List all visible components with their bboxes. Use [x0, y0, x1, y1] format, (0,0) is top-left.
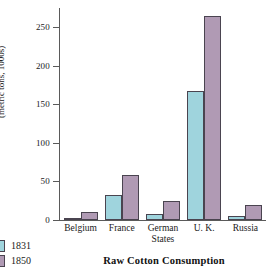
bar-group	[228, 8, 262, 220]
bar	[187, 91, 204, 221]
legend-item: 1850	[0, 253, 31, 268]
chart-legend: 18311850	[0, 238, 31, 268]
bar	[146, 214, 163, 220]
legend-swatch	[0, 255, 5, 267]
y-axis-tick-label: 0	[45, 216, 50, 225]
bar-groups	[60, 8, 266, 220]
y-axis-tick-label: 100	[36, 138, 50, 147]
y-axis-tick-mark	[53, 27, 60, 28]
chart-title: Raw Cotton Consumption	[60, 255, 268, 266]
x-axis-category-label: GermanStates	[143, 223, 183, 245]
y-axis-label: (metric tons, 1000s)	[0, 46, 6, 118]
chart-figure: (metric tons, 1000s) 050100150200250 Bel…	[0, 0, 271, 271]
x-axis-category-label: Belgium	[61, 223, 101, 245]
x-axis-category-label-line: Belgium	[61, 223, 101, 234]
legend-swatch	[0, 240, 5, 252]
y-axis-tick-mark	[53, 104, 60, 105]
x-axis-category-label-line: States	[143, 234, 183, 245]
bar	[163, 201, 180, 220]
legend-label: 1850	[11, 255, 31, 266]
bar	[81, 212, 98, 220]
y-axis-tick-mark	[53, 181, 60, 182]
y-axis-tick-mark	[53, 143, 60, 144]
x-axis-category-label: France	[102, 223, 142, 245]
bar	[64, 218, 81, 220]
bar	[204, 16, 221, 220]
x-axis-category-labels: BelgiumFranceGermanStatesU. K.Russia	[60, 223, 266, 245]
bar-group	[105, 8, 139, 220]
bar-group	[187, 8, 221, 220]
bar	[245, 205, 262, 220]
x-axis-category-label-line: Russia	[225, 223, 265, 234]
x-axis-category-label-line: France	[102, 223, 142, 234]
y-axis-tick-label: 200	[36, 61, 50, 70]
y-axis-tick-label: 150	[36, 100, 50, 109]
x-axis-category-label: U. K.	[184, 223, 224, 245]
legend-item: 1831	[0, 238, 31, 253]
bar	[228, 216, 245, 220]
y-axis-tick-mark	[53, 220, 60, 221]
x-axis-category-label-line: U. K.	[184, 223, 224, 234]
x-axis-category-label: Russia	[225, 223, 265, 245]
bar-group	[64, 8, 98, 220]
bar-group	[146, 8, 180, 220]
y-axis-tick-label: 250	[36, 23, 50, 32]
legend-label: 1831	[11, 240, 31, 251]
y-axis-tick-mark	[53, 66, 60, 67]
x-axis-category-label-line: German	[143, 223, 183, 234]
x-axis-line	[59, 220, 266, 221]
bar	[105, 195, 122, 220]
y-axis-tick-label: 50	[41, 177, 50, 186]
bar	[122, 175, 139, 220]
